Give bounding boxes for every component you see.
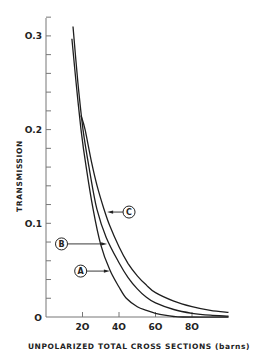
arrowhead-icon (101, 242, 107, 245)
curve-b (73, 27, 229, 317)
curves (72, 27, 229, 318)
arrowhead-icon (104, 269, 110, 272)
y-tick-label: O.3 (25, 31, 42, 41)
label-text: A (78, 267, 85, 276)
x-tick-label: 2O (76, 322, 90, 332)
y-tick-label: O.1 (25, 219, 42, 229)
y-tick-label: O (34, 313, 42, 323)
y-tick-label: O.2 (25, 125, 42, 135)
x-tick-label: 6O (149, 322, 163, 332)
arrowhead-icon (107, 210, 113, 213)
curve-c (81, 116, 229, 313)
y-axis: OO.1O.2O.3 (25, 17, 51, 322)
curve-labels: ABC (56, 206, 136, 277)
x-axis-title: UNPOLARIZED TOTAL CROSS SECTIONS (barns) (28, 342, 250, 351)
label-c: C (107, 206, 135, 218)
label-text: B (58, 240, 64, 249)
label-a: A (75, 265, 110, 277)
x-tick-label: 4O (112, 322, 126, 332)
label-text: C (126, 208, 132, 217)
x-tick-label: 8O (185, 322, 199, 332)
transmission-chart: OO.1O.2O.3 2O4O6O8O ABC TRANSMISSION UNP… (0, 0, 259, 364)
y-axis-title: TRANSMISSION (15, 140, 24, 212)
